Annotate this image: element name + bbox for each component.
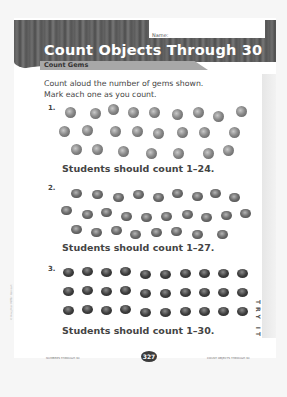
gem-icon[interactable] bbox=[63, 268, 74, 277]
gem-icon[interactable] bbox=[172, 189, 183, 198]
gem-icon[interactable] bbox=[192, 192, 203, 201]
gem-icon[interactable] bbox=[141, 213, 152, 222]
gem-icon[interactable] bbox=[221, 211, 232, 220]
try-it-tab: TRY IT bbox=[255, 300, 262, 339]
gem-icon[interactable] bbox=[132, 126, 143, 137]
gem-icon[interactable] bbox=[240, 209, 251, 218]
gem-icon[interactable] bbox=[151, 228, 162, 237]
gem-icon[interactable] bbox=[82, 305, 93, 314]
gem-icon[interactable] bbox=[177, 127, 188, 138]
gem-icon[interactable] bbox=[201, 213, 212, 222]
gem-icon[interactable] bbox=[229, 193, 240, 202]
gem-icon[interactable] bbox=[59, 126, 70, 137]
gem-icon[interactable] bbox=[172, 109, 183, 120]
gem-icon[interactable] bbox=[91, 228, 102, 237]
gem-icon[interactable] bbox=[130, 230, 141, 239]
copyright-notice: © Houghton Mifflin Harcourt bbox=[10, 284, 13, 320]
gem-icon[interactable] bbox=[71, 144, 82, 155]
gem-icon[interactable] bbox=[140, 270, 151, 279]
gem-icon[interactable] bbox=[199, 269, 210, 278]
instruction-line-2: Mark each one as you count. bbox=[44, 90, 203, 101]
gem-icon[interactable] bbox=[149, 107, 160, 118]
gem-icon[interactable] bbox=[92, 144, 103, 155]
gem-icon[interactable] bbox=[203, 148, 214, 159]
gem-icon[interactable] bbox=[213, 111, 224, 122]
gem-icon[interactable] bbox=[90, 108, 101, 119]
instruction-line-1: Count aloud the number of gems shown. bbox=[44, 79, 203, 90]
gem-icon[interactable] bbox=[128, 107, 139, 118]
gem-icon[interactable] bbox=[140, 308, 151, 317]
gem-icon[interactable] bbox=[101, 268, 112, 277]
instructions: Count aloud the number of gems shown. Ma… bbox=[44, 79, 203, 100]
gem-icon[interactable] bbox=[199, 307, 210, 316]
gem-icon[interactable] bbox=[218, 288, 229, 297]
footer-lesson-title: COUNT OBJECTS THROUGH 30 bbox=[207, 356, 250, 360]
gem-icon[interactable] bbox=[192, 230, 203, 239]
gem-icon[interactable] bbox=[146, 148, 157, 159]
gem-icon[interactable] bbox=[153, 128, 164, 139]
gem-icon[interactable] bbox=[237, 269, 248, 278]
gem-icon[interactable] bbox=[160, 289, 171, 298]
gem-icon[interactable] bbox=[92, 190, 103, 199]
gem-icon[interactable] bbox=[133, 190, 144, 199]
gem-icon[interactable] bbox=[199, 288, 210, 297]
gem-icon[interactable] bbox=[218, 307, 229, 316]
gem-icon[interactable] bbox=[161, 212, 172, 221]
gem-icon[interactable] bbox=[111, 226, 122, 235]
gem-icon[interactable] bbox=[210, 189, 221, 198]
gem-icon[interactable] bbox=[120, 267, 131, 276]
gem-icon[interactable] bbox=[65, 107, 76, 118]
gem-icon[interactable] bbox=[193, 107, 204, 118]
gem-icon[interactable] bbox=[160, 308, 171, 317]
gem-icon[interactable] bbox=[113, 193, 124, 202]
gem-icon[interactable] bbox=[120, 286, 131, 295]
gem-icon[interactable] bbox=[61, 206, 72, 215]
gem-icon[interactable] bbox=[110, 126, 121, 137]
gem-icon[interactable] bbox=[82, 286, 93, 295]
gem-icon[interactable] bbox=[120, 305, 131, 314]
gem-icon[interactable] bbox=[182, 210, 193, 219]
gem-icon[interactable] bbox=[101, 208, 112, 217]
gem-icon[interactable] bbox=[108, 104, 119, 115]
gem-icon[interactable] bbox=[82, 210, 93, 219]
gem-icon[interactable] bbox=[173, 148, 184, 159]
gem-icon[interactable] bbox=[82, 125, 93, 136]
gem-icon[interactable] bbox=[71, 225, 82, 234]
gem-icon[interactable] bbox=[101, 287, 112, 296]
gem-icon[interactable] bbox=[237, 307, 248, 316]
page-subtitle: Count Gems bbox=[44, 61, 88, 69]
gem-icon[interactable] bbox=[63, 306, 74, 315]
gem-icon[interactable] bbox=[223, 145, 234, 156]
gem-icon[interactable] bbox=[180, 288, 191, 297]
gem-icon[interactable] bbox=[140, 289, 151, 298]
problem-3-number: 3. bbox=[48, 265, 56, 273]
footer-unit-title: NUMBERS THROUGH 30 bbox=[46, 356, 80, 360]
problem-3-answer: Students should count 1–30. bbox=[62, 325, 214, 336]
gem-icon[interactable] bbox=[63, 287, 74, 296]
problem-2-answer: Students should count 1–27. bbox=[62, 242, 214, 253]
gem-icon[interactable] bbox=[229, 127, 240, 138]
gem-icon[interactable] bbox=[237, 288, 248, 297]
gem-icon[interactable] bbox=[71, 189, 82, 198]
page-edge-shadow bbox=[262, 38, 276, 338]
name-label: Name: bbox=[152, 32, 168, 38]
gem-icon[interactable] bbox=[101, 306, 112, 315]
gem-icon[interactable] bbox=[180, 269, 191, 278]
gem-icon[interactable] bbox=[180, 307, 191, 316]
gem-icon[interactable] bbox=[82, 267, 93, 276]
gem-icon[interactable] bbox=[171, 227, 182, 236]
gem-icon[interactable] bbox=[236, 106, 247, 117]
gem-icon[interactable] bbox=[118, 146, 129, 157]
gem-icon[interactable] bbox=[217, 230, 228, 239]
problem-1-number: 1. bbox=[48, 104, 56, 112]
gem-icon[interactable] bbox=[218, 269, 229, 278]
problem-1-answer: Students should count 1–24. bbox=[62, 163, 214, 174]
gem-icon[interactable] bbox=[121, 212, 132, 221]
problem-2-number: 2. bbox=[48, 184, 56, 192]
page-title: Count Objects Through 30 bbox=[44, 42, 262, 58]
gem-icon[interactable] bbox=[199, 127, 210, 138]
gem-icon[interactable] bbox=[153, 193, 164, 202]
gem-icon[interactable] bbox=[160, 270, 171, 279]
page-number-badge: 327 bbox=[141, 351, 157, 362]
